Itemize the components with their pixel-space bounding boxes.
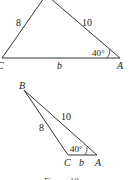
side-ba-1 [50,0,120,58]
vertex-c-2: C [64,157,71,168]
angle-arc-1 [107,49,110,58]
label-10-2: 10 [61,111,71,122]
side-cb-1 [2,0,44,58]
label-angle-2: 40° [70,144,83,154]
vertex-a-2: A [94,157,102,168]
label-8-2: 8 [39,122,44,133]
side-bc-2 [24,90,68,155]
label-8-1: 8 [16,17,21,28]
vertex-a-1: A [116,60,124,71]
vertex-b-2: B [19,80,25,91]
triangle-2: B 8 10 40° C b A [19,80,102,168]
label-10-1: 10 [82,17,92,28]
label-b-1: b [57,60,62,71]
vertex-c-1: C [0,60,4,71]
label-angle-1: 40° [92,48,105,58]
triangle-diagram: 8 10 b 40° C A B 8 10 40° C b A Figure 1… [0,0,136,180]
label-b-2: b [79,157,84,168]
side-ba-2 [24,90,97,155]
angle-arc-2 [85,147,87,155]
triangle-1: 8 10 b 40° C A [0,0,124,71]
figure-caption: Figure 10 [44,176,79,180]
